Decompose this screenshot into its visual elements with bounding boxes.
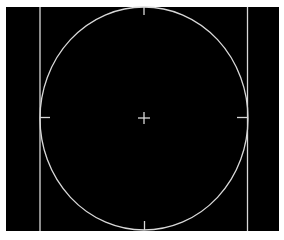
center-crosshair-icon xyxy=(138,112,150,124)
overlay-guides xyxy=(0,0,284,240)
